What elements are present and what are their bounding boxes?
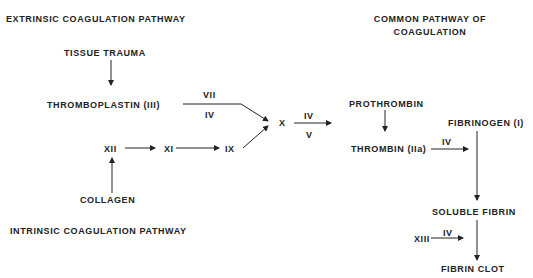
node-thromboplastin: THROMBOPLASTIN (III) <box>47 100 160 110</box>
node-fibrin-clot: FIBRIN CLOT <box>441 264 505 274</box>
node-collagen: COLLAGEN <box>80 195 135 205</box>
cofactor-iv-2: IV <box>304 111 314 121</box>
node-xii: XII <box>104 144 117 154</box>
arrow-thromboplastin-x <box>183 104 268 121</box>
node-xi: XI <box>164 144 174 154</box>
node-ix: IX <box>225 144 235 154</box>
heading-common-2: COAGULATION <box>360 27 500 37</box>
node-fibrinogen: FIBRINOGEN (I) <box>448 118 524 128</box>
cofactor-v: V <box>306 130 313 140</box>
node-tissue-trauma: TISSUE TRAUMA <box>64 48 146 58</box>
heading-intrinsic: INTRINSIC COAGULATION PATHWAY <box>10 226 187 236</box>
node-soluble-fibrin: SOLUBLE FIBRIN <box>432 207 516 217</box>
cofactor-iv-3: IV <box>442 137 452 147</box>
node-thrombin: THROMBIN (IIa) <box>351 144 426 154</box>
arrow-ix-x <box>243 126 268 148</box>
cofactor-iv-4: IV <box>443 228 453 238</box>
node-prothrombin: PROTHROMBIN <box>349 99 424 109</box>
arrows-layer <box>0 0 533 278</box>
node-xiii: XIII <box>414 234 430 244</box>
coagulation-cascade-diagram: EXTRINSIC COAGULATION PATHWAY COMMON PAT… <box>0 0 533 278</box>
heading-extrinsic: EXTRINSIC COAGULATION PATHWAY <box>6 14 186 24</box>
node-x: X <box>279 118 286 128</box>
heading-common-1: COMMON PATHWAY OF <box>360 14 500 24</box>
cofactor-vii: VII <box>203 90 216 100</box>
cofactor-iv-1: IV <box>205 110 215 120</box>
